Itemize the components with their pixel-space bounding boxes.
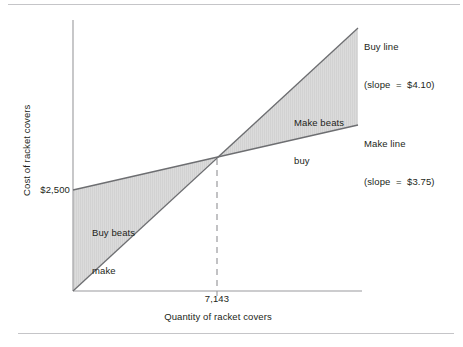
make-beats-buy-line2: buy: [294, 155, 344, 168]
make-beats-buy-line1: Make beats: [294, 117, 344, 130]
make-line-annotation-slope: (slope = $3.75): [364, 176, 435, 189]
make-line-annotation: Make line (slope = $3.75): [364, 113, 435, 213]
make-line-annotation-name: Make line: [364, 138, 435, 151]
make-beats-buy-annotation: Make beats buy: [294, 92, 344, 192]
x-tick-label-7143: 7,143: [190, 293, 244, 306]
buy-beats-make-annotation: Buy beats make: [92, 202, 135, 302]
y-axis-title: Cost of racket covers: [21, 85, 34, 215]
buy-line-annotation: Buy line (slope = $4.10): [364, 16, 435, 116]
buy-line-annotation-slope: (slope = $4.10): [364, 79, 435, 92]
x-axis-title: Quantity of racket covers: [133, 311, 303, 324]
buy-line-annotation-name: Buy line: [364, 41, 435, 54]
buy-beats-make-line1: Buy beats: [92, 227, 135, 240]
chart-figure: Cost of racket covers Quantity of racket…: [0, 0, 463, 347]
y-tick-label-2500: $2,500: [34, 184, 70, 197]
buy-beats-make-line2: make: [92, 265, 135, 278]
